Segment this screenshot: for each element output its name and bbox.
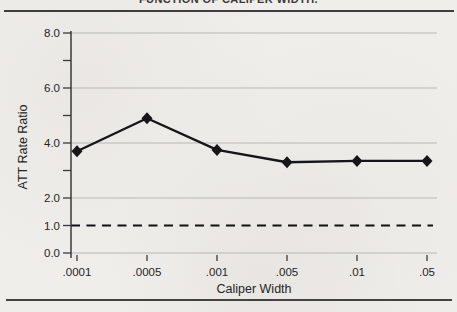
data-point-marker (352, 155, 363, 167)
line-chart: 0.01.02.04.06.08.0.0001.0005.001.005.01.… (0, 0, 457, 312)
x-tick-label: .05 (419, 266, 435, 278)
data-point-marker (282, 156, 293, 168)
series-line (77, 118, 427, 162)
y-tick-label: 0.0 (44, 247, 60, 259)
data-point-marker (212, 144, 223, 156)
data-point-marker (422, 155, 433, 167)
y-axis-title: ATT Rate Ratio (16, 47, 32, 247)
bottom-rule (6, 299, 452, 301)
x-tick-label: .0001 (63, 266, 92, 278)
x-tick-label: .001 (206, 266, 228, 278)
data-point-marker (142, 112, 153, 124)
scanned-figure: FUNCTION OF CALIPER WIDTH. 0.01.02.04.06… (0, 0, 457, 312)
y-tick-label: 8.0 (44, 27, 60, 39)
y-tick-label: 4.0 (44, 137, 60, 149)
x-axis-title: Caliper Width (71, 282, 437, 296)
x-tick-label: .0005 (133, 266, 162, 278)
x-tick-label: .005 (276, 266, 298, 278)
y-tick-label: 2.0 (44, 192, 60, 204)
y-tick-label: 1.0 (44, 220, 60, 232)
y-tick-label: 6.0 (44, 82, 60, 94)
data-point-marker (72, 145, 83, 157)
x-tick-label: .01 (349, 266, 365, 278)
